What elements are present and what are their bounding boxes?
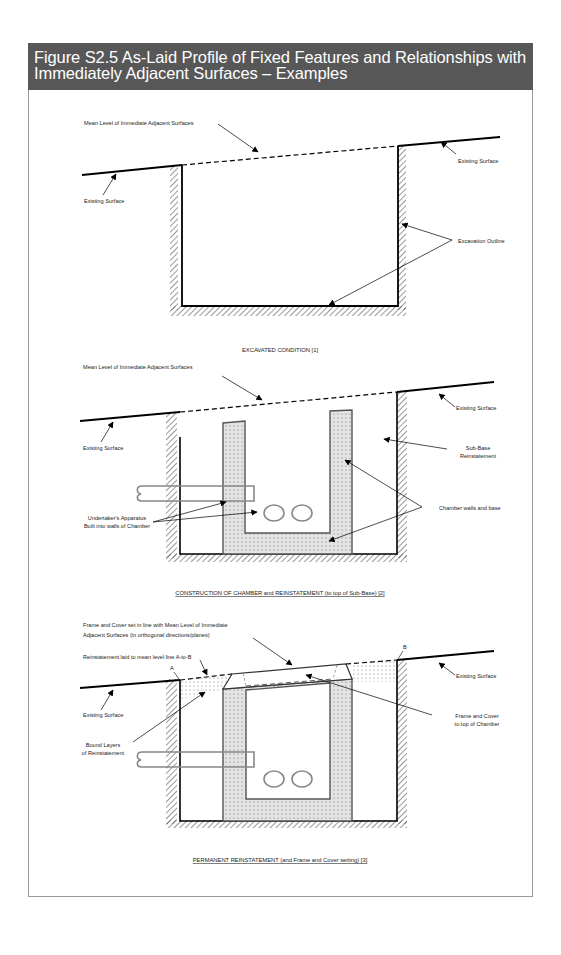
existing-surface-right-line — [397, 382, 494, 392]
label-point-b: B — [403, 644, 407, 650]
arrow-frame-cover-level — [253, 638, 292, 665]
arrow-reinstatement-line — [200, 660, 207, 675]
arrow-chamber-wall — [345, 460, 422, 507]
arrow-outline-wall — [402, 224, 452, 240]
existing-surface-left-line — [80, 680, 180, 688]
arrow-existing-left — [103, 174, 116, 195]
hatch-right-wall — [397, 391, 407, 558]
label-bound-layers-1: Bound Layers — [86, 742, 121, 748]
label-reinstatement-line: Reinstatement laid to mean level line A-… — [83, 654, 192, 660]
existing-surface-left-line — [80, 412, 180, 421]
label-point-a: A — [170, 665, 174, 671]
diagrams-canvas: Mean Level of Immediate Adjacent Surface… — [0, 0, 561, 955]
existing-surface-right-line — [398, 137, 500, 146]
apparatus-duct-1 — [264, 505, 284, 521]
label-frame-top-2: to top of Chamber — [455, 721, 500, 727]
label-mean-level: Mean Level of Immediate Adjacent Surface… — [83, 364, 193, 370]
chamber-walls-base — [223, 410, 352, 554]
label-apparatus-2: Built into walls of Chamber — [84, 523, 150, 529]
label-bound-layers-2: of Reinstatement — [82, 750, 125, 756]
label-mean-level: Mean Level of Immediate Adjacent Surface… — [84, 120, 194, 126]
caption-permanent: PERMANENT REINSTATEMENT (and Frame and C… — [193, 857, 368, 863]
apparatus-duct-2 — [292, 771, 312, 787]
arrow-existing-left — [101, 422, 113, 442]
mean-level-line — [180, 392, 397, 412]
label-sub-base-1: Sub-Base — [466, 445, 491, 451]
label-chamber: Chamber walls and base — [439, 505, 501, 511]
label-sub-base-2: Reinstatement — [460, 453, 497, 459]
label-existing-surface-right: Existing Surface — [456, 673, 496, 679]
excavation-outline — [182, 146, 398, 306]
diagram-excavated: Mean Level of Immediate Adjacent Surface… — [82, 120, 505, 353]
hatch-left-wall — [166, 412, 177, 558]
label-existing-surface-left: Existing Surface — [83, 712, 123, 718]
point-a-tick — [174, 672, 179, 679]
hatch-base — [166, 554, 407, 562]
label-existing-surface-left: Existing Surface — [84, 198, 124, 204]
label-existing-surface-right: Existing Surface — [458, 158, 498, 164]
label-existing-surface-left: Existing Surface — [83, 445, 123, 451]
label-existing-surface-right: Existing Surface — [456, 405, 496, 411]
hatch-right-wall — [397, 659, 407, 824]
mean-level-line — [182, 146, 398, 165]
hatch-right-wall — [398, 145, 406, 310]
apparatus-duct-1 — [264, 771, 284, 787]
arrow-outline-base — [329, 240, 452, 305]
caption-construction: CONSTRUCTION OF CHAMBER and REINSTATEMEN… — [175, 590, 385, 596]
arrow-mean-level — [218, 124, 258, 152]
arrow-mean-level — [222, 376, 262, 400]
label-apparatus-1: Undertaker's Apparatus — [88, 515, 146, 521]
existing-surface-left-line — [82, 165, 182, 175]
arrow-existing-left — [101, 690, 113, 710]
arrow-existing-right — [439, 394, 455, 407]
caption-excavated: EXCAVATED CONDITION [1] — [242, 347, 318, 353]
arrow-sub-base — [384, 439, 447, 449]
hatch-left-wall — [170, 165, 178, 310]
arrow-apparatus-pipe — [153, 502, 226, 522]
hatch-base — [170, 306, 406, 316]
arrow-existing-right — [439, 663, 455, 675]
arrow-existing-right — [441, 142, 456, 154]
label-frame-cover-2: Adjacent Surfaces (in orthogonal directi… — [83, 632, 210, 638]
apparatus-duct-2 — [292, 505, 312, 521]
existing-surface-right-line — [397, 651, 494, 660]
diagram-permanent: A B Frame and Cover set in line with Mea… — [80, 622, 500, 863]
label-frame-cover-1: Frame and Cover set in line with Mean Le… — [83, 622, 228, 628]
excavation-outline — [180, 392, 397, 554]
diagram-construction: Mean Level of Immediate Adjacent Surface… — [80, 364, 501, 596]
label-excavation-outline: Excavation Outline — [458, 238, 505, 244]
chamber-walls-base — [223, 679, 352, 821]
label-frame-top-1: Frame and Cover — [455, 713, 499, 719]
point-b-tick — [398, 651, 403, 659]
